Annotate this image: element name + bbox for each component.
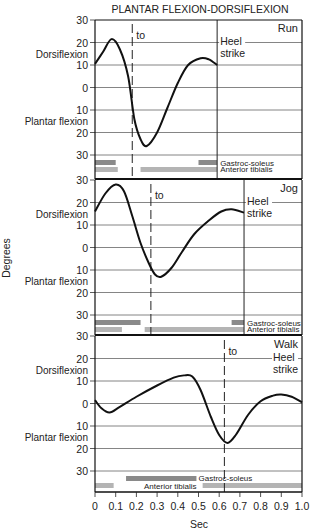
heel-strike-label: Heel [247, 195, 269, 207]
y-tick-label: 10 [76, 420, 88, 432]
plantar-flexion-label: Plantar flexion [25, 116, 88, 127]
muscle-bar-gastroc-soleus [95, 160, 116, 165]
plantar-flexion-label: Plantar flexion [25, 432, 88, 443]
y-tick-label: 30 [76, 330, 88, 342]
muscle-bar-gastroc-soleus [232, 320, 244, 325]
y-tick-label: 10 [76, 104, 88, 116]
heel-strike-label: strike [247, 207, 272, 219]
x-tick-label: 0.9 [274, 500, 289, 512]
y-tick-label: 0 [82, 398, 88, 410]
x-tick-label: 0.4 [170, 500, 185, 512]
chart-title: PLANTAR FLEXION-DORSIFLEXION [111, 3, 288, 15]
muscle-label: Anterior tibialis [220, 165, 272, 174]
panel-jog: 3020100102030DorsiflexionPlantar flexion… [25, 174, 302, 335]
x-tick-label: 0 [92, 500, 98, 512]
y-axis-label: Degrees [0, 238, 12, 278]
muscle-bar-gastroc-soleus [199, 160, 218, 165]
angle-curve-jog [95, 184, 244, 277]
dorsiflexion-label: Dorsiflexion [36, 49, 88, 60]
heel-strike-label: Heel [220, 35, 242, 47]
y-tick-label: 20 [76, 287, 88, 299]
dorsiflexion-label: Dorsiflexion [36, 209, 88, 220]
y-tick-label: 20 [76, 353, 88, 365]
x-tick-label: 0.2 [129, 500, 144, 512]
y-tick-label: 20 [76, 37, 88, 49]
muscle-bar-anterior-tibialis [203, 483, 302, 488]
y-tick-label: 0 [82, 82, 88, 94]
panel-run: 3020100102030DorsiflexionPlantar flexion… [25, 14, 302, 179]
x-tick-label: 1.0 [295, 500, 310, 512]
y-tick-label: 10 [76, 264, 88, 276]
plantar-flexion-label: Plantar flexion [25, 276, 88, 287]
y-tick-label: 20 [76, 127, 88, 139]
panel-name: Walk [274, 338, 299, 350]
x-tick-label: 0.8 [253, 500, 268, 512]
y-tick-label: 20 [76, 197, 88, 209]
y-tick-label: 30 [76, 149, 88, 161]
y-tick-label: 30 [76, 309, 88, 321]
muscle-bar-anterior-tibialis [145, 327, 244, 332]
panel-name: Jog [280, 182, 298, 194]
toe-off-label: to [228, 345, 237, 357]
x-tick-label: 0.7 [233, 500, 248, 512]
y-tick-label: 10 [76, 375, 88, 387]
y-tick-label: 30 [76, 465, 88, 477]
muscle-bar-anterior-tibialis [95, 167, 118, 172]
y-tick-label: 10 [76, 59, 88, 71]
y-tick-label: 20 [76, 443, 88, 455]
muscle-bar-gastroc-soleus [95, 320, 141, 325]
heel-strike-label: Heel [273, 351, 295, 363]
x-tick-label: 0.1 [108, 500, 123, 512]
x-axis-label: Sec [190, 518, 208, 530]
heel-strike-label: strike [273, 363, 298, 375]
muscle-bar-anterior-tibialis [95, 327, 122, 332]
angle-curve-run [95, 39, 217, 146]
toe-off-label: to [155, 189, 164, 201]
muscle-bar-anterior-tibialis [141, 167, 218, 172]
y-tick-label: 0 [82, 242, 88, 254]
y-tick-label: 30 [76, 174, 88, 186]
muscle-bar-anterior-tibialis [95, 483, 114, 488]
y-tick-label: 30 [76, 14, 88, 26]
y-tick-label: 10 [76, 219, 88, 231]
heel-strike-label: strike [220, 47, 245, 59]
muscle-bar-gastroc-soleus [126, 476, 196, 481]
muscle-label: Anterior tibialis [247, 325, 299, 334]
plantar-dorsiflexion-chart: PLANTAR FLEXION-DORSIFLEXION302010010203… [0, 0, 314, 532]
panel-name: Run [278, 22, 298, 34]
panel-walk: 3020100102030DorsiflexionPlantar flexion… [25, 330, 302, 492]
x-tick-label: 0.6 [212, 500, 227, 512]
x-tick-label: 0.5 [191, 500, 206, 512]
dorsiflexion-label: Dorsiflexion [36, 365, 88, 376]
muscle-label: Gastroc-soleus [199, 474, 253, 483]
muscle-label: Anterior tibialis [144, 482, 196, 491]
x-tick-label: 0.3 [150, 500, 165, 512]
angle-curve-walk [95, 375, 302, 443]
toe-off-label: to [136, 29, 145, 41]
